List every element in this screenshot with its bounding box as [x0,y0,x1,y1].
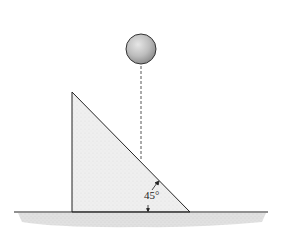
ball [126,34,156,64]
angle-label: 45° [144,189,159,201]
wedge-incline [72,92,190,212]
ground-shading [18,213,266,227]
